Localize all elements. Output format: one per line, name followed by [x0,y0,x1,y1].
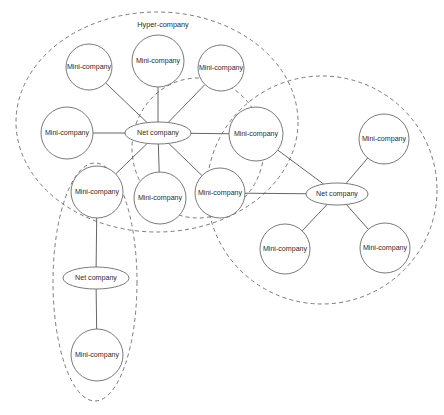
node-net-1[interactable]: Net company [125,122,191,144]
node-mini-9[interactable]: Mini-company [195,168,245,218]
edge-net-2-to-mini-9 [245,193,306,194]
group-label-hyper-company: Hyper-company [137,20,189,29]
node-shape-mini-4[interactable] [41,107,93,159]
node-shape-mini-9[interactable] [195,168,245,218]
node-mini-11[interactable]: Mini-company [360,223,410,273]
node-mini-12[interactable]: Mini-company [71,329,123,381]
node-mini-5[interactable]: Mini-company [229,107,283,161]
edge-net-2-to-mini-11 [346,204,368,229]
group-labels-layer: Hyper-company [137,20,189,29]
node-mini-7[interactable]: Mini-company [71,166,123,218]
edge-net-1-to-mini-1 [106,83,148,123]
node-shape-mini-5[interactable] [229,107,283,161]
edge-net-1-to-mini-7 [116,143,148,174]
node-shape-mini-6[interactable] [359,114,409,164]
edge-net-2-to-mini-6 [346,158,368,183]
network-diagram-canvas: Mini-companyMini-companyMini-companyMini… [0,0,444,415]
network-diagram: Mini-companyMini-companyMini-companyMini… [0,0,444,415]
edge-net-1-to-mini-3 [168,85,205,123]
node-shape-mini-12[interactable] [71,329,123,381]
edge-net-1-to-mini-8 [158,144,159,172]
node-mini-1[interactable]: Mini-company [66,44,112,90]
node-shape-mini-11[interactable] [360,223,410,273]
node-mini-2[interactable]: Mini-company [132,35,184,87]
node-mini-8[interactable]: Mini-company [134,172,186,224]
node-shape-net-3[interactable] [63,267,129,289]
node-shape-mini-8[interactable] [134,172,186,224]
edge-net-2-to-mini-10 [302,204,327,230]
node-shape-mini-10[interactable] [260,224,310,274]
node-net-2[interactable]: Net company [306,183,368,205]
node-mini-6[interactable]: Mini-company [359,114,409,164]
edge-net-2-to-mini-5 [278,150,324,184]
node-shape-mini-2[interactable] [132,35,184,87]
node-shape-mini-3[interactable] [198,45,244,91]
node-net-3[interactable]: Net company [63,267,129,289]
edge-net-3-to-mini-7 [96,218,97,267]
node-shape-net-2[interactable] [306,183,368,205]
nodes-layer: Mini-companyMini-companyMini-companyMini… [41,35,410,381]
node-shape-mini-7[interactable] [71,166,123,218]
node-mini-4[interactable]: Mini-company [41,107,93,159]
node-shape-net-1[interactable] [125,122,191,144]
edge-net-1-to-mini-9 [169,143,202,175]
node-mini-10[interactable]: Mini-company [260,224,310,274]
node-mini-3[interactable]: Mini-company [198,45,244,91]
node-shape-mini-1[interactable] [66,44,112,90]
edge-net-3-to-mini-12 [96,289,97,329]
